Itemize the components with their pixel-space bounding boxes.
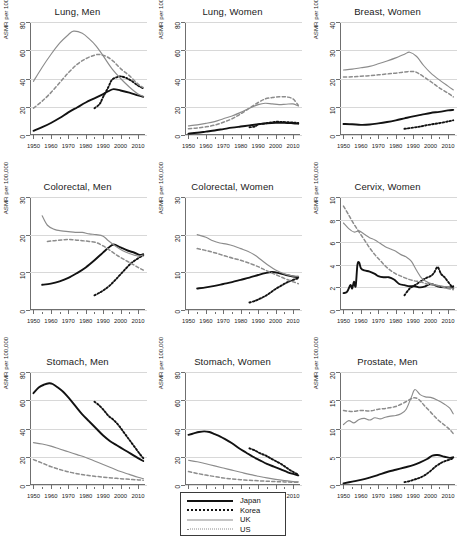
x-tick-label: 1970 (217, 143, 230, 149)
y-tick (181, 485, 185, 486)
x-tick-label: 1990 (97, 493, 110, 499)
x-tick-minor (197, 487, 198, 490)
x-tick-label: 1980 (234, 143, 247, 149)
x-tick-minor (77, 312, 78, 315)
x-tick-label: 1950 (182, 318, 195, 324)
x-tick-minor (112, 137, 113, 140)
x-tick-label: 1980 (389, 493, 402, 499)
legend-key-us-icon (186, 525, 234, 534)
x-tick (188, 310, 189, 314)
x-tick-label: 2000 (424, 318, 437, 324)
x-tick (361, 135, 362, 139)
x-tick-label: 1960 (199, 143, 212, 149)
plot-area: 01020301950196019701980199020002010 (30, 197, 145, 310)
series-line-uk (33, 443, 143, 479)
series-line-korea (404, 267, 453, 295)
x-tick (68, 135, 69, 139)
series-line-us (33, 54, 143, 108)
x-tick-label: 1990 (252, 318, 265, 324)
legend-item-korea: Korea (186, 506, 280, 516)
series-layer (340, 372, 455, 485)
y-axis-title: ASMR per 100,000 (157, 153, 164, 223)
plot-area: 0204060801950196019701980199020002010 (30, 372, 145, 485)
x-tick-label: 2010 (131, 493, 144, 499)
x-tick-minor (422, 312, 423, 315)
plot-area: 0204060801950196019701980199020002010 (185, 22, 300, 135)
cancer-mortality-figure: Lung, Men 020406080195019601970198019902… (0, 0, 465, 541)
x-tick-minor (232, 487, 233, 490)
series-line-korea (94, 402, 143, 459)
x-tick-minor (60, 487, 61, 490)
x-tick-minor (284, 137, 285, 140)
x-tick-label: 1990 (97, 318, 110, 324)
x-tick (33, 135, 34, 139)
x-tick (103, 135, 104, 139)
x-tick-minor (284, 487, 285, 490)
x-tick-minor (387, 487, 388, 490)
x-tick-minor (60, 312, 61, 315)
series-layer (340, 22, 455, 135)
legend-key-uk-icon (186, 515, 234, 524)
x-tick (241, 310, 242, 314)
x-tick (276, 485, 277, 489)
x-tick (431, 485, 432, 489)
x-tick-minor (370, 487, 371, 490)
x-tick (121, 135, 122, 139)
panel-2: Breast, Women 01020304019501960197019801… (310, 0, 465, 175)
y-axis-title: ASMR per 100,000 (312, 0, 319, 48)
x-tick (241, 485, 242, 489)
x-tick-label: 1960 (44, 493, 57, 499)
x-tick-minor (352, 137, 353, 140)
legend-label: Korea (234, 506, 260, 515)
x-tick-label: 1980 (389, 143, 402, 149)
legend-item-uk: UK (186, 515, 280, 525)
x-tick (223, 310, 224, 314)
x-tick (103, 485, 104, 489)
x-tick (293, 135, 294, 139)
x-tick-label: 1960 (44, 143, 57, 149)
x-tick (293, 310, 294, 314)
x-tick-minor (77, 487, 78, 490)
series-line-korea (404, 458, 453, 482)
y-axis-title: ASMR per 100,000 (2, 153, 9, 223)
panel-8: Prostate, Men 05101520195019601970198019… (310, 350, 465, 525)
series-layer (30, 197, 145, 310)
x-tick-label: 1970 (217, 318, 230, 324)
x-tick-minor (197, 137, 198, 140)
x-tick-minor (249, 137, 250, 140)
x-tick-minor (112, 312, 113, 315)
x-tick-minor (267, 312, 268, 315)
x-tick-label: 1980 (234, 318, 247, 324)
x-tick-label: 1980 (79, 318, 92, 324)
x-tick (51, 310, 52, 314)
x-tick (343, 135, 344, 139)
x-tick-label: 1960 (354, 318, 367, 324)
x-tick-minor (422, 137, 423, 140)
x-tick (413, 310, 414, 314)
series-line-uk (343, 389, 453, 424)
x-tick (86, 310, 87, 314)
x-tick-label: 1950 (337, 143, 350, 149)
x-tick-label: 1970 (372, 318, 385, 324)
x-tick (33, 485, 34, 489)
series-line-us (343, 398, 453, 434)
series-layer (185, 22, 300, 135)
legend: Japan Korea UK US (180, 492, 286, 536)
series-line-japan (188, 123, 298, 134)
x-tick-label: 1960 (44, 318, 57, 324)
panel-title: Cervix, Women (310, 181, 465, 192)
x-tick-minor (232, 137, 233, 140)
plot-area: 02468101950196019701980199020002010 (340, 197, 455, 310)
plot-area: 051015201950196019701980199020002010 (340, 372, 455, 485)
x-tick (68, 310, 69, 314)
panel-title: Stomach, Men (0, 356, 155, 367)
x-tick (51, 485, 52, 489)
series-line-japan (33, 383, 143, 461)
x-tick (343, 485, 344, 489)
x-tick-minor (112, 487, 113, 490)
legend-item-japan: Japan (186, 496, 280, 506)
legend-key-japan-icon (186, 496, 234, 505)
y-axis-title: ASMR per 100,000 (157, 328, 164, 398)
panel-title: Breast, Women (310, 6, 465, 17)
x-tick (448, 485, 449, 489)
